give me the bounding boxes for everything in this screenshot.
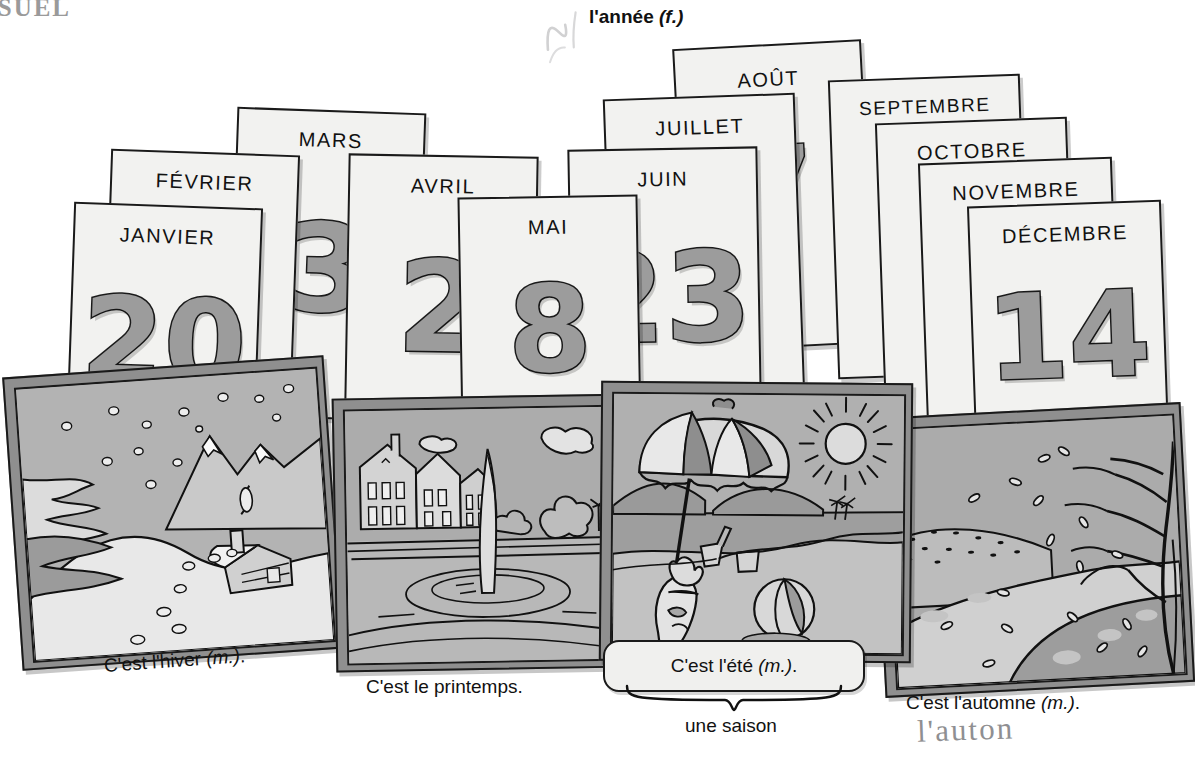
year-label: l'année (f.) — [589, 6, 683, 28]
season-caption-text: C'est l'automne — [906, 692, 1036, 713]
year-gender: (f.) — [659, 6, 683, 27]
pencil-note-automne: l'auton — [916, 710, 1014, 749]
calendar-month-label: JUILLET — [605, 113, 794, 143]
calendar-month-label: JUIN — [570, 166, 756, 192]
calendar-day-number: 8 — [461, 268, 639, 391]
season-caption-text: C'est le printemps. — [366, 676, 523, 697]
calendar-month-label: SEPTEMBRE — [831, 93, 1020, 122]
season-caption-printemps: C'est le printemps. — [366, 676, 523, 698]
season-photo-hiver[interactable] — [2, 355, 344, 671]
calendar-month-label: FÉVRIER — [112, 168, 298, 197]
calendar-day-number: 14 — [972, 274, 1166, 399]
calendar-month-label: MAI — [460, 214, 636, 240]
season-scene-automne — [882, 413, 1187, 690]
year-label-text: l'année — [589, 6, 654, 27]
season-gender: (m.) — [758, 655, 792, 677]
calendar-month-label: DÉCEMBRE — [970, 220, 1161, 250]
page-marker: ISUEL — [0, 0, 71, 22]
callout-brace-icon — [625, 684, 843, 712]
season-photo-automne[interactable] — [871, 402, 1195, 698]
season-caption-text: C'est l'été — [671, 655, 753, 677]
season-scene-printemps — [343, 405, 631, 666]
calendar-month-label: JANVIER — [75, 222, 261, 251]
season-scene-hiver — [14, 367, 337, 664]
season-photo-ete[interactable] — [599, 381, 913, 664]
season-caption-automne: C'est l'automne (m.). — [906, 692, 1080, 714]
season-gender: (m.) — [1041, 692, 1075, 713]
season-gender: (m.) — [205, 645, 240, 668]
season-scene-ete — [610, 392, 906, 657]
callout-label-saison: une saison — [685, 715, 777, 737]
calendar-month-label: MARS — [238, 126, 424, 155]
season-photo-printemps[interactable] — [332, 393, 639, 672]
